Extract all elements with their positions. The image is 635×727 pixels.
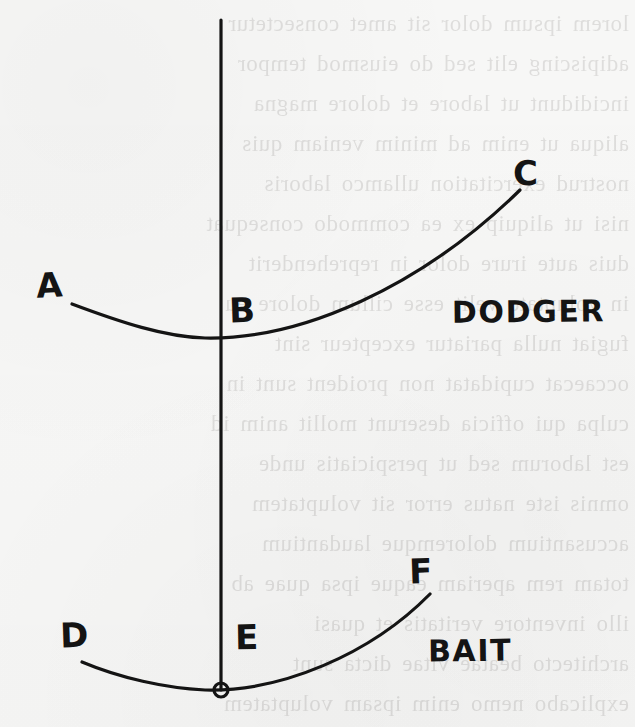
ink-drawing (0, 0, 635, 727)
paper-sheet: lorem ipsum dolor sit amet consectetur a… (0, 0, 635, 727)
point-label-b: B (228, 293, 255, 328)
point-label-a: A (35, 267, 63, 302)
curve-label-dodger: DODGER (452, 296, 605, 328)
curve-label-bait: BAIT (428, 635, 513, 666)
point-label-f: F (408, 554, 432, 589)
point-label-d: D (59, 618, 88, 653)
point-label-c: C (513, 156, 539, 190)
point-label-e: E (235, 620, 259, 654)
